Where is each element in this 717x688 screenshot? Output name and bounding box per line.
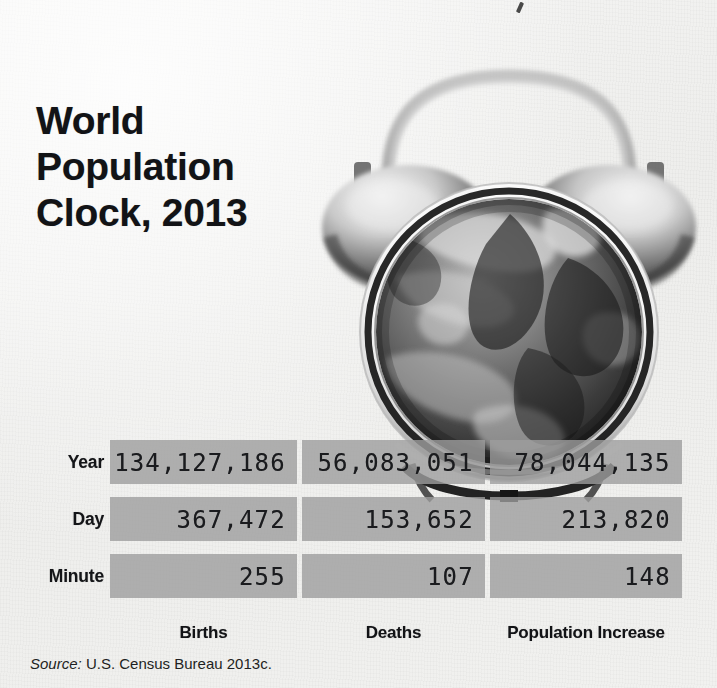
cell-minute-births: 255 — [110, 554, 297, 598]
cell-minute-deaths: 107 — [302, 554, 485, 598]
table-row: Day 367,472 153,652 213,820 — [0, 497, 717, 541]
value-year-population-increase: 78,044,135 — [515, 450, 671, 475]
clock-face — [360, 183, 658, 481]
column-header-population-increase: Population Increase — [490, 620, 682, 646]
row-label-day: Day — [0, 497, 104, 541]
cell-day-deaths: 153,652 — [302, 497, 485, 541]
value-day-deaths: 153,652 — [365, 507, 474, 532]
source-text: U.S. Census Bureau 2013c. — [86, 655, 272, 672]
column-header-deaths: Deaths — [302, 620, 485, 646]
alarm-clock-illustration — [300, 14, 717, 514]
cell-year-births: 134,127,186 — [110, 440, 297, 484]
source-label: Source: — [30, 655, 82, 672]
table-row: Year 134,127,186 56,083,051 78,044,135 — [0, 440, 717, 484]
value-day-population-increase: 213,820 — [562, 507, 671, 532]
source-note: Source: U.S. Census Bureau 2013c. — [30, 655, 272, 672]
print-speck-artifact — [516, 2, 524, 14]
title-line-1: World — [36, 98, 326, 144]
cell-day-births: 367,472 — [110, 497, 297, 541]
column-headers: Births Deaths Population Increase — [0, 620, 717, 646]
cell-year-deaths: 56,083,051 — [302, 440, 485, 484]
value-minute-population-increase: 148 — [624, 564, 671, 589]
cell-minute-population-increase: 148 — [490, 554, 682, 598]
page-title: World Population Clock, 2013 — [36, 98, 326, 236]
value-minute-deaths: 107 — [427, 564, 474, 589]
value-year-deaths: 56,083,051 — [318, 450, 474, 475]
cell-day-population-increase: 213,820 — [490, 497, 682, 541]
column-header-births: Births — [110, 620, 297, 646]
cell-year-population-increase: 78,044,135 — [490, 440, 682, 484]
earth-globe-image — [376, 199, 642, 465]
row-label-minute: Minute — [0, 554, 104, 598]
value-year-births: 134,127,186 — [114, 450, 286, 475]
table-row: Minute 255 107 148 — [0, 554, 717, 598]
title-line-2: Population — [36, 144, 326, 190]
row-label-year: Year — [0, 440, 104, 484]
title-line-3: Clock, 2013 — [36, 190, 326, 236]
value-minute-births: 255 — [239, 564, 286, 589]
value-day-births: 367,472 — [177, 507, 286, 532]
population-clock-table: Year 134,127,186 56,083,051 78,044,135 D… — [0, 440, 717, 611]
alarm-clock-svg — [300, 14, 717, 514]
